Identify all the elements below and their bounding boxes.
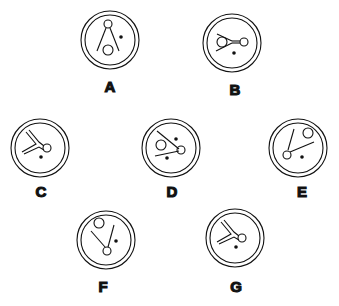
label-e: E: [297, 183, 307, 200]
figure-a: [81, 11, 139, 69]
inner-ring: [85, 15, 135, 65]
arm: [110, 28, 119, 51]
small-ring-icon: [104, 20, 112, 28]
label-d: D: [167, 183, 178, 200]
figure-f: [77, 211, 135, 269]
figure-c: [11, 119, 69, 177]
arm: [97, 28, 106, 51]
label-g: G: [230, 278, 242, 295]
label-a: A: [105, 78, 116, 95]
figure-canvas: A B C D: [0, 0, 339, 306]
label-c: C: [36, 183, 47, 200]
dot: [119, 35, 123, 39]
label-f: F: [98, 278, 107, 295]
figure-d: [142, 119, 200, 177]
outer-ring: [81, 11, 139, 69]
figure-g: [206, 209, 264, 267]
label-b: B: [230, 81, 241, 98]
figure-e: [269, 119, 327, 177]
figure-b: [203, 14, 261, 72]
open-circle: [103, 45, 113, 55]
